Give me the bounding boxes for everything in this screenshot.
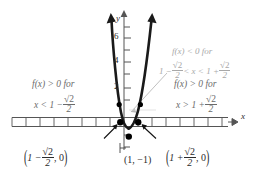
annotation-right-line1: f(x) > 0 for: [174, 80, 217, 90]
annotation-middle-fraction-1: √22: [172, 61, 183, 79]
right-branch-arrowhead: [147, 13, 156, 23]
x-axis-label: x: [241, 112, 245, 121]
left-root-fraction: √22: [42, 147, 55, 167]
vertex-connector: [120, 143, 126, 153]
y-axis-label: y: [116, 14, 120, 23]
annotation-right-lead: x > 1 +: [176, 100, 205, 110]
annotation-left-fraction: √22: [63, 95, 75, 114]
right-root-open-paren: (: [166, 148, 169, 168]
right-root-tail: , 0: [196, 152, 206, 163]
label-vertex: (1, −1): [124, 155, 151, 166]
left-root-lead: 1 −: [27, 152, 41, 163]
annotation-right-line2: x > 1 +√22: [176, 95, 217, 114]
left-root-close-paren: ): [64, 148, 67, 168]
label-left-root: (1 −√22, 0): [24, 147, 67, 167]
left-root-open-paren: (: [24, 148, 27, 168]
annotation-middle-line2: 1 −√22< x < 1 +√22: [159, 61, 230, 79]
point-upper-right: [138, 102, 143, 107]
point-root-left: [117, 119, 123, 125]
right-root-lead: 1 +: [169, 152, 183, 163]
point-upper-left: [117, 102, 122, 107]
y-tick-6: 6: [114, 32, 119, 41]
point-vertex: [126, 133, 132, 139]
right-root-close-paren: ): [206, 148, 209, 168]
y-tick-2: 2: [114, 82, 119, 91]
label-right-root: (1 +√22, 0): [166, 147, 209, 167]
annotation-middle-line1: f(x) < 0 for: [172, 47, 212, 56]
point-root-right: [135, 119, 141, 125]
annotation-left-line1: f(x) > 0 for: [32, 80, 75, 90]
left-branch-arrowhead: [107, 13, 116, 24]
y-tick-4: 4: [114, 56, 119, 65]
left-root-tail: , 0: [54, 152, 64, 163]
annotation-middle-mid: < x < 1 +: [183, 66, 219, 76]
annotation-left-line2: x < 1 −√22: [34, 95, 75, 114]
annotation-middle-fraction-2: √22: [219, 61, 230, 79]
annotation-right-fraction: √22: [205, 95, 217, 114]
annotation-left-lead: x < 1 −: [34, 100, 63, 110]
right-root-fraction: √22: [184, 147, 197, 167]
annotation-middle-lead: 1 −: [159, 66, 172, 76]
